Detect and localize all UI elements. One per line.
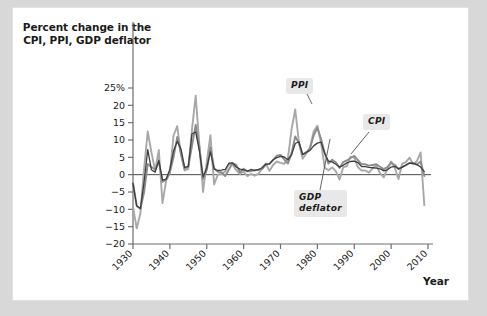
y-tick-label: −5 (111, 186, 125, 197)
x-tick-label: 1960 (220, 248, 245, 273)
y-tick-label: 0 (119, 169, 125, 180)
x-tick-label: 1930 (110, 248, 135, 273)
series-line-cpi (133, 125, 424, 209)
callout-ppi: PPI (286, 78, 313, 94)
chart-plot: 25%20151050−5−10−15−20193019401950196019… (13, 8, 468, 300)
x-tick-label: 1980 (294, 248, 319, 273)
x-tick-label: 1970 (257, 248, 282, 273)
series-line-gdp-deflator (133, 132, 424, 208)
callout-cpi: CPI (363, 114, 390, 130)
y-tick-label: 5 (119, 152, 125, 163)
x-tick-label: 2000 (368, 248, 393, 273)
y-tick-label: 20 (113, 100, 125, 111)
y-tick-label: 15 (113, 117, 125, 128)
figure-panel: Percent change in the CPI, PPI, GDP defl… (13, 8, 468, 300)
leader-cpi (351, 132, 369, 154)
x-tick-label: 2010 (405, 248, 430, 273)
callout-gdp-deflator: GDP deflator (294, 190, 347, 217)
y-tick-label: 10 (113, 134, 125, 145)
x-tick-label: 1940 (146, 248, 171, 273)
x-axis-label: Year (423, 275, 449, 287)
y-tick-label: −10 (105, 204, 125, 215)
y-tick-label: −20 (105, 238, 125, 249)
x-tick-label: 1950 (183, 248, 208, 273)
y-tick-label: −15 (105, 221, 125, 232)
x-tick-label: 1990 (331, 248, 356, 273)
y-tick-label: 25% (104, 82, 125, 93)
